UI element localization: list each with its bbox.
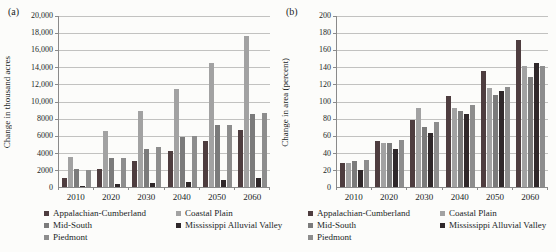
legend-item: Mid-South	[308, 219, 440, 231]
bar-2060-piedmont	[262, 113, 267, 187]
legend-item: Mississippi Alluvial Valley	[440, 219, 546, 231]
bar-2050-piedmont	[505, 87, 510, 187]
y-tick-label: 200	[319, 12, 331, 20]
bar-2060-coastal-plain	[244, 36, 249, 187]
bar-group-2030	[407, 16, 442, 187]
y-ticks: 020406080100120140160180200	[292, 16, 336, 188]
bar-group-2010	[337, 16, 372, 187]
y-tick-label: 2000	[37, 167, 53, 175]
legend-label: Piedmont	[53, 231, 88, 243]
x-tick-mark	[93, 187, 94, 190]
y-axis-title: Change in area (percent)	[278, 16, 292, 188]
legend: Appalachian-CumberlandMid-SouthPiedmontC…	[44, 207, 282, 243]
bar-group-2060	[235, 16, 270, 187]
y-tick-label: 40	[323, 150, 331, 158]
bar-group-2010	[59, 16, 94, 187]
bar-2020-mississippi-alluvial-valley	[115, 184, 120, 187]
legend-item: Piedmont	[308, 231, 440, 243]
x-ticks: 201020202030204020502060	[336, 192, 548, 202]
legend-swatch	[308, 211, 313, 216]
y-tick-label: 120	[319, 81, 331, 89]
y-tick-label: 160	[319, 46, 331, 54]
bar-2010-mid-south	[74, 169, 79, 187]
bar-2020-coastal-plain	[103, 131, 108, 187]
y-tick-label: 60	[323, 132, 331, 140]
legend-swatch	[176, 211, 181, 216]
bar-2040-coastal-plain	[174, 89, 179, 187]
legend-label: Appalachian-Cumberland	[317, 207, 410, 219]
y-axis-title-text: Change in area (percent)	[280, 58, 290, 147]
legend-item: Mississippi Alluvial Valley	[176, 219, 282, 231]
figure: (a) Change in thousand acres 02000400060…	[0, 0, 556, 252]
bar-group-2030	[129, 16, 164, 187]
bar-2040-mississippi-alluvial-valley	[464, 114, 469, 187]
legend-item: Coastal Plain	[176, 207, 282, 219]
panel-b: (b) Change in area (percent) 02040608010…	[278, 0, 556, 252]
bar-2050-mississippi-alluvial-valley	[221, 180, 226, 187]
x-tick-mark	[269, 187, 270, 190]
y-tick-label: 20,000	[31, 12, 53, 20]
x-tick-mark	[58, 187, 59, 190]
bar-2030-piedmont	[434, 122, 439, 187]
y-tick-label: 180	[319, 29, 331, 37]
bar-group-2050	[478, 16, 513, 187]
bar-2050-mississippi-alluvial-valley	[499, 91, 504, 187]
legend-swatch	[440, 223, 445, 228]
bar-2060-piedmont	[540, 66, 545, 187]
legend-label: Mississippi Alluvial Valley	[185, 219, 282, 231]
y-ticks: 0200040006000800010,00012,00014,00016,00…	[14, 16, 58, 188]
x-tick-label: 2040	[442, 192, 477, 202]
bar-2010-piedmont	[364, 160, 369, 187]
legend-column-2: Coastal PlainMississippi Alluvial Valley	[440, 207, 546, 243]
x-tick-mark	[164, 187, 165, 190]
bar-2060-mississippi-alluvial-valley	[534, 63, 539, 187]
y-tick-label: 10,000	[31, 98, 53, 106]
legend-label: Mid-South	[53, 219, 92, 231]
panel-b-chart: Change in area (percent) 020406080100120…	[278, 16, 548, 188]
bar-2060-appalachian-cumberland	[238, 130, 243, 187]
bar-2060-mid-south	[528, 77, 533, 187]
bar-2040-mississippi-alluvial-valley	[186, 182, 191, 187]
bar-2040-piedmont	[192, 136, 197, 187]
bar-2030-appalachian-cumberland	[410, 120, 415, 187]
bar-2030-mississippi-alluvial-valley	[428, 133, 433, 187]
bar-2030-mid-south	[422, 127, 427, 187]
bar-2010-mid-south	[352, 161, 357, 188]
bar-2010-coastal-plain	[68, 157, 73, 187]
legend-item: Appalachian-Cumberland	[308, 207, 440, 219]
bar-group-2050	[200, 16, 235, 187]
legend-item: Appalachian-Cumberland	[44, 207, 176, 219]
legend-label: Mid-South	[317, 219, 356, 231]
legend-column-1: Appalachian-CumberlandMid-SouthPiedmont	[44, 207, 176, 243]
x-tick-mark	[442, 187, 443, 190]
x-tick-mark	[234, 187, 235, 190]
bar-2050-mid-south	[493, 95, 498, 187]
y-tick-label: 80	[323, 115, 331, 123]
x-tick-label: 2030	[407, 192, 442, 202]
bar-2010-piedmont	[86, 170, 91, 187]
bar-2050-appalachian-cumberland	[203, 141, 208, 187]
legend-label: Coastal Plain	[449, 207, 497, 219]
x-tick-label: 2060	[513, 192, 548, 202]
bar-2030-appalachian-cumberland	[132, 161, 137, 187]
x-tick-label: 2060	[235, 192, 270, 202]
bar-2040-mid-south	[180, 137, 185, 187]
x-tick-mark	[128, 187, 129, 190]
bar-2050-coastal-plain	[209, 63, 214, 187]
bar-group-2040	[443, 16, 478, 187]
bar-2020-appalachian-cumberland	[97, 169, 102, 187]
bar-2030-coastal-plain	[138, 111, 143, 187]
legend-swatch	[440, 211, 445, 216]
bar-2020-mid-south	[387, 143, 392, 187]
bar-2020-coastal-plain	[381, 143, 386, 187]
y-tick-label: 0	[327, 184, 331, 192]
bar-2030-mississippi-alluvial-valley	[150, 183, 155, 187]
y-tick-label: 6000	[37, 132, 53, 140]
y-tick-label: 16,000	[31, 46, 53, 54]
x-tick-label: 2020	[371, 192, 406, 202]
legend-swatch	[308, 223, 313, 228]
y-tick-label: 12,000	[31, 81, 53, 89]
y-axis-title: Change in thousand acres	[0, 16, 14, 188]
y-tick-label: 18,000	[31, 29, 53, 37]
bar-2050-mid-south	[215, 125, 220, 187]
